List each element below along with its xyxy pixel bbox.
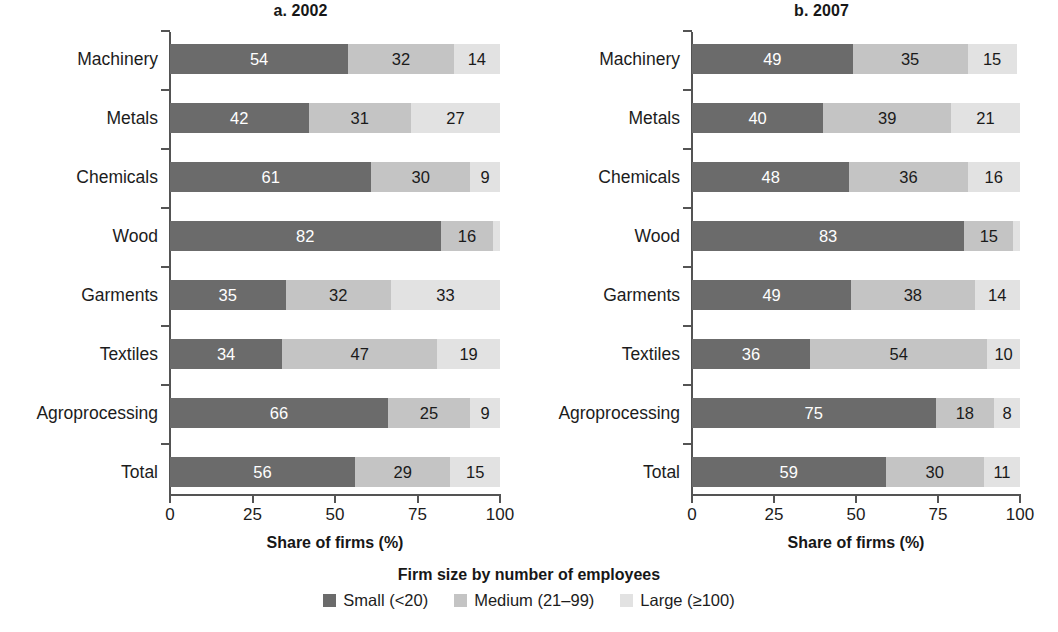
- category-label-machinery: Machinery: [77, 49, 158, 70]
- y-axis-tick: [161, 30, 170, 32]
- x-axis-tick: [691, 494, 693, 503]
- category-label-metals: Metals: [106, 108, 158, 129]
- y-axis-tick: [683, 266, 692, 268]
- x-axis-tick-label: 50: [847, 505, 866, 525]
- y-axis-tick: [683, 148, 692, 150]
- bar-segment-medium: 47: [282, 339, 437, 369]
- stacked-bar: 353233: [170, 280, 500, 310]
- category-label-total: Total: [643, 462, 680, 483]
- x-axis-tick-label: 100: [486, 505, 514, 525]
- stacked-bar: 423127: [170, 103, 500, 133]
- y-axis-tick: [161, 89, 170, 91]
- bar-segment-medium: 38: [851, 280, 974, 310]
- legend-item-small: Small (<20): [323, 591, 428, 610]
- bar-segment-small: 54: [170, 44, 348, 74]
- x-axis-tick-label: 25: [243, 505, 262, 525]
- bar-segment-small: 61: [170, 162, 371, 192]
- bar-segment-small: 40: [692, 103, 823, 133]
- stacked-bar: 562915: [170, 457, 500, 487]
- legend-swatch-icon-medium: [454, 594, 467, 607]
- x-axis-tick: [773, 494, 775, 503]
- y-axis-tick: [683, 207, 692, 209]
- bar-segment-large: 9: [470, 162, 500, 192]
- bar-segment-large: 27: [411, 103, 500, 133]
- bar-segment-small: 42: [170, 103, 309, 133]
- category-label-agroprocessing: Agroprocessing: [558, 403, 680, 424]
- category-label-garments: Garments: [603, 285, 680, 306]
- x-axis-tick-label: 50: [326, 505, 345, 525]
- stacked-bar: 493814: [692, 280, 1020, 310]
- category-label-chemicals: Chemicals: [598, 167, 680, 188]
- bar-segment-medium: 25: [388, 398, 471, 428]
- bar-segment-medium: 15: [964, 221, 1013, 251]
- stacked-bar: 493515: [692, 44, 1020, 74]
- legend-items: Small (<20)Medium (21–99)Large (≥100): [0, 591, 1058, 610]
- bar-segment-medium: 39: [823, 103, 951, 133]
- y-axis-tick: [161, 207, 170, 209]
- plot-area-2007: Share of firms (%) Machinery493515Metals…: [692, 32, 1020, 494]
- bar-segment-small: 82: [170, 221, 441, 251]
- legend-title: Firm size by number of employees: [0, 566, 1058, 584]
- category-label-wood: Wood: [635, 226, 680, 247]
- x-axis-tick: [169, 494, 171, 503]
- x-axis-tick: [1019, 494, 1021, 503]
- panel-title-2007: b. 2007: [529, 2, 1058, 20]
- bar-segment-medium: 30: [886, 457, 984, 487]
- bar-segment-large: 19: [437, 339, 500, 369]
- y-axis-tick: [161, 148, 170, 150]
- y-axis-tick: [161, 384, 170, 386]
- bar-segment-large: 10: [987, 339, 1020, 369]
- stacked-bar: 61309: [170, 162, 500, 192]
- bar-segment-large: [493, 221, 500, 251]
- bar-segment-large: [1013, 221, 1020, 251]
- bar-segment-large: 21: [951, 103, 1020, 133]
- legend-swatch-icon-small: [323, 594, 336, 607]
- bar-segment-large: 11: [984, 457, 1020, 487]
- bar-row: Machinery493515: [692, 44, 1020, 74]
- stacked-bar: 8315: [692, 221, 1020, 251]
- bar-row: Textiles344719: [170, 339, 500, 369]
- y-axis-tick: [161, 443, 170, 445]
- bar-segment-medium: 32: [348, 44, 454, 74]
- x-axis-tick: [855, 494, 857, 503]
- stacked-bar: 75188: [692, 398, 1020, 428]
- x-axis-tick-label: 75: [408, 505, 427, 525]
- x-axis-tick: [499, 494, 501, 503]
- legend-item-label: Large (≥100): [640, 591, 734, 610]
- x-axis-tick-label: 75: [929, 505, 948, 525]
- bar-segment-large: 33: [391, 280, 500, 310]
- bar-segment-large: 15: [450, 457, 500, 487]
- bar-segment-large: 15: [968, 44, 1017, 74]
- category-label-garments: Garments: [81, 285, 158, 306]
- x-axis-tick: [252, 494, 254, 503]
- category-label-metals: Metals: [628, 108, 680, 129]
- bar-row: Metals403921: [692, 103, 1020, 133]
- category-label-machinery: Machinery: [599, 49, 680, 70]
- category-label-textiles: Textiles: [100, 344, 158, 365]
- stacked-bar-figure: a. 2002 Share of firms (%) Machinery5432…: [0, 0, 1058, 632]
- x-axis-tick: [937, 494, 939, 503]
- x-axis-tick-label: 100: [1006, 505, 1034, 525]
- bar-segment-small: 56: [170, 457, 355, 487]
- bar-row: Garments493814: [692, 280, 1020, 310]
- bar-row: Machinery543214: [170, 44, 500, 74]
- bar-segment-large: 9: [470, 398, 500, 428]
- bar-segment-medium: 16: [441, 221, 494, 251]
- stacked-bar: 365410: [692, 339, 1020, 369]
- panel-title-2002: a. 2002: [0, 2, 565, 20]
- bar-segment-small: 66: [170, 398, 388, 428]
- stacked-bar: 344719: [170, 339, 500, 369]
- bar-segment-large: 14: [454, 44, 500, 74]
- bar-segment-medium: 18: [936, 398, 994, 428]
- category-label-textiles: Textiles: [622, 344, 680, 365]
- y-axis-tick: [683, 325, 692, 327]
- x-axis-title-2002: Share of firms (%): [170, 534, 500, 552]
- bar-row: Agroprocessing66259: [170, 398, 500, 428]
- bar-segment-small: 34: [170, 339, 282, 369]
- x-axis-tick-label: 25: [765, 505, 784, 525]
- bar-segment-medium: 31: [309, 103, 411, 133]
- legend-item-label: Medium (21–99): [474, 591, 594, 610]
- bar-segment-small: 83: [692, 221, 964, 251]
- bar-segment-large: 14: [975, 280, 1020, 310]
- bar-row: Total593011: [692, 457, 1020, 487]
